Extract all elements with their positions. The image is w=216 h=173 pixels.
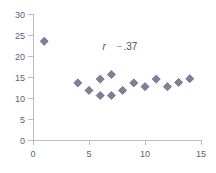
data-point	[130, 79, 138, 87]
y-tick-label-0: 0	[20, 136, 25, 146]
data-point	[152, 75, 160, 83]
data-point	[119, 86, 127, 94]
data-point	[107, 91, 115, 99]
data-point	[186, 75, 194, 83]
data-point	[85, 86, 93, 94]
data-point	[74, 79, 82, 87]
y-tick-label-10: 10	[15, 94, 25, 104]
x-axis-ticks	[33, 140, 201, 145]
data-point	[96, 91, 104, 99]
correlation-symbol: r	[102, 41, 106, 52]
y-axis-ticks	[28, 14, 33, 140]
y-tick-label-5: 5	[20, 115, 25, 125]
y-tick-label-25: 25	[15, 31, 25, 41]
x-tick-label-0: 0	[30, 149, 35, 159]
plot-area: 30 25 20 15 10 5 0 0 5 10 15 r − .37	[0, 0, 216, 173]
data-point	[96, 75, 104, 83]
scatter-chart: 30 25 20 15 10 5 0 0 5 10 15 r − .37	[0, 0, 216, 173]
y-tick-label-15: 15	[15, 73, 25, 83]
annotation-layer: r − .37	[102, 41, 137, 52]
correlation-value: .37	[123, 41, 137, 52]
data-point	[40, 37, 48, 45]
x-tick-label-5: 5	[86, 149, 91, 159]
y-tick-label-20: 20	[15, 52, 25, 62]
data-point	[175, 78, 183, 86]
x-tick-label-10: 10	[140, 149, 150, 159]
y-tick-label-30: 30	[15, 10, 25, 20]
data-point	[107, 70, 115, 78]
correlation-sign: −	[116, 41, 122, 52]
x-tick-label-15: 15	[196, 149, 206, 159]
data-point	[163, 83, 171, 91]
data-point	[141, 83, 149, 91]
